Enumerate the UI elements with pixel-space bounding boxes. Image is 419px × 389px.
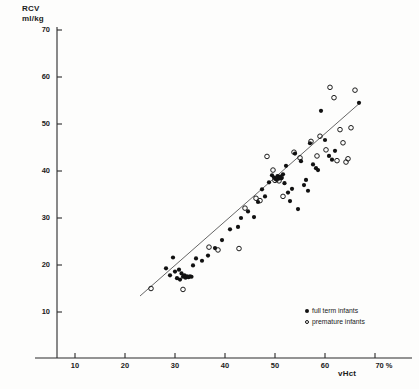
- data-point-full-term: [189, 275, 193, 279]
- open-circle-icon: [305, 320, 309, 324]
- legend: full term infants premature infants: [305, 306, 365, 327]
- data-point-full-term: [286, 191, 290, 195]
- filled-circle-icon: [305, 309, 309, 313]
- data-point-full-term: [168, 273, 172, 277]
- scatter-plot-figure: RCV ml/kg vHct 10203040506070 1020304050…: [0, 0, 419, 389]
- data-point-full-term: [200, 259, 204, 263]
- y-tick-label-30: 30: [26, 213, 50, 222]
- data-point-full-term: [302, 183, 306, 187]
- data-point-premature: [207, 245, 212, 250]
- data-point-premature: [271, 168, 276, 173]
- data-point-premature: [181, 287, 186, 292]
- data-point-full-term: [239, 216, 243, 220]
- data-point-premature: [265, 154, 270, 159]
- data-point-full-term: [311, 162, 315, 166]
- x-tick-label-40: 40: [215, 361, 235, 370]
- x-tick-label-50: 50: [265, 361, 285, 370]
- x-tick-label-70: 70 %: [369, 361, 399, 370]
- y-tick-label-20: 20: [26, 260, 50, 269]
- data-point-full-term: [327, 154, 331, 158]
- data-point-full-term: [220, 238, 224, 242]
- legend-label-full-term: full term infants: [312, 306, 358, 317]
- x-tick-label-30: 30: [165, 361, 185, 370]
- data-point-full-term: [306, 189, 310, 193]
- data-point-full-term: [304, 178, 308, 182]
- data-point-full-term: [319, 109, 323, 113]
- data-point-full-term: [260, 187, 264, 191]
- data-point-premature: [237, 246, 242, 251]
- data-point-full-term: [357, 101, 361, 105]
- data-point-full-term: [252, 215, 256, 219]
- x-tick-label-20: 20: [115, 361, 135, 370]
- data-point-premature: [216, 248, 221, 253]
- data-point-premature: [315, 154, 320, 159]
- data-point-premature: [335, 158, 340, 163]
- y-tick-label-40: 40: [26, 166, 50, 175]
- data-point-full-term: [177, 268, 181, 272]
- data-point-premature: [341, 141, 346, 146]
- y-tick-label-10: 10: [26, 307, 50, 316]
- data-point-full-term: [284, 164, 288, 168]
- data-point-premature: [349, 125, 354, 130]
- x-tick-label-10: 10: [65, 361, 85, 370]
- data-point-full-term: [164, 266, 168, 270]
- data-point-full-term: [191, 263, 195, 267]
- plot-canvas: [0, 0, 419, 389]
- data-point-full-term: [236, 225, 240, 229]
- y-tick-label-60: 60: [26, 72, 50, 81]
- data-point-full-term: [194, 256, 198, 260]
- legend-entry-full-term: full term infants: [305, 306, 365, 317]
- data-point-full-term: [330, 158, 334, 162]
- data-point-full-term: [333, 149, 337, 153]
- data-point-full-term: [171, 255, 175, 259]
- data-point-full-term: [173, 269, 177, 273]
- y-tick-label-50: 50: [26, 119, 50, 128]
- data-point-full-term: [316, 168, 320, 172]
- y-tick-marks: [57, 30, 62, 312]
- data-point-full-term: [267, 180, 271, 184]
- y-tick-label-70: 70: [26, 25, 50, 34]
- data-point-premature: [243, 206, 248, 211]
- legend-entry-premature: premature infants: [305, 317, 365, 328]
- data-point-full-term: [323, 138, 327, 142]
- data-point-premature: [353, 88, 358, 93]
- regression-line: [140, 103, 360, 296]
- data-point-premature: [328, 85, 333, 90]
- data-point-full-term: [290, 187, 294, 191]
- legend-label-premature: premature infants: [312, 317, 365, 328]
- data-point-premature: [332, 95, 337, 100]
- data-point-full-term: [288, 199, 292, 203]
- x-tick-label-60: 60: [315, 361, 335, 370]
- x-tick-marks: [75, 353, 375, 358]
- data-point-full-term: [296, 207, 300, 211]
- data-point-premature: [338, 127, 343, 132]
- data-point-full-term: [206, 254, 210, 258]
- data-point-full-term: [263, 194, 267, 198]
- data-point-premature: [281, 194, 286, 199]
- data-point-premature: [324, 148, 329, 153]
- data-point-full-term: [282, 181, 286, 185]
- data-point-full-term: [228, 227, 232, 231]
